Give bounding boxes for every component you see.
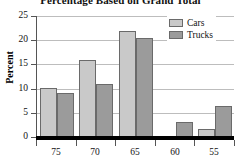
- y-axis-tick: [31, 89, 36, 90]
- bar: [79, 60, 96, 137]
- legend-item: Cars: [169, 18, 213, 28]
- chart-legend: CarsTrucks: [167, 16, 216, 42]
- x-axis-tick: [234, 140, 235, 146]
- legend-swatch-icon: [169, 19, 183, 27]
- chart-title: Percentage Based on Grand Total: [0, 0, 241, 6]
- y-axis-tick: [31, 64, 36, 65]
- y-axis-tick: [31, 40, 36, 41]
- y-axis-tick-label: 0: [8, 132, 28, 141]
- bar: [136, 38, 153, 137]
- bar: [96, 84, 113, 137]
- x-axis-tick: [115, 140, 116, 146]
- y-axis-tick-label: 25: [8, 11, 28, 20]
- y-axis-tick-label: 20: [8, 35, 28, 44]
- bar: [40, 88, 57, 137]
- bar: [215, 106, 232, 137]
- bar: [57, 93, 74, 137]
- bar: [119, 31, 136, 137]
- y-axis-tick-label: 10: [8, 84, 28, 93]
- bar-chart: Percentage Based on Grand Total Percent …: [0, 0, 241, 160]
- x-axis-tick: [194, 140, 195, 146]
- legend-item: Trucks: [169, 30, 213, 40]
- y-axis-tick: [31, 16, 36, 17]
- y-axis-tick: [31, 137, 36, 138]
- y-axis-tick: [31, 113, 36, 114]
- x-axis-baseline: [36, 136, 234, 140]
- legend-item-label: Trucks: [187, 30, 213, 40]
- x-axis-tick: [76, 140, 77, 146]
- x-axis-tick-label: 75: [36, 147, 76, 157]
- bar: [176, 122, 193, 137]
- y-axis-tick-label: 5: [8, 108, 28, 117]
- legend-item-label: Cars: [187, 18, 204, 28]
- y-axis-tick-label: 15: [8, 59, 28, 68]
- x-axis-tick-label: 70: [75, 147, 115, 157]
- x-axis-tick-label: 65: [115, 147, 155, 157]
- x-axis-tick: [155, 140, 156, 146]
- x-axis-tick: [36, 140, 37, 146]
- x-axis-tick-label: 60: [155, 147, 195, 157]
- x-axis-tick-label: 55: [194, 147, 234, 157]
- legend-swatch-icon: [169, 31, 183, 39]
